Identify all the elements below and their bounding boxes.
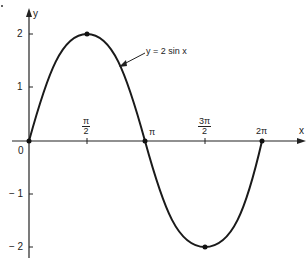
y-axis-arrow-icon xyxy=(26,8,32,17)
x-tick-three-pi-half: 3π 2 xyxy=(198,117,211,136)
y-tick-2: 2 xyxy=(17,29,23,39)
y-axis-label: y xyxy=(33,9,38,19)
x-tick-two-pi: 2π xyxy=(256,127,267,136)
x-axis-arrow-icon xyxy=(297,138,306,144)
x-tick-pi-half: π 2 xyxy=(82,117,90,136)
y-tick-neg1: − 1 xyxy=(9,189,23,199)
curve-annotation: y = 2 sin x xyxy=(146,47,187,56)
origin-label: 0 xyxy=(18,146,24,156)
x-axis-label: x xyxy=(299,126,304,136)
y-tick-neg2: − 2 xyxy=(9,242,23,252)
x-tick-pi: π xyxy=(149,128,155,137)
y-tick-1: 1 xyxy=(17,82,23,92)
